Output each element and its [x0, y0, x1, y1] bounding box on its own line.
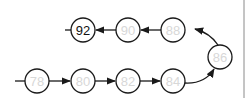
node-84: 84 — [161, 69, 185, 93]
node-label: 84 — [166, 74, 180, 89]
node-label: 88 — [166, 23, 180, 38]
node-86: 86 — [208, 45, 232, 69]
node-80: 80 — [71, 69, 95, 93]
node-88: 88 — [161, 18, 185, 42]
node-92: 92 — [71, 18, 95, 42]
node-label: 90 — [121, 23, 135, 38]
node-label: 82 — [121, 74, 135, 89]
node-label: 80 — [76, 74, 90, 89]
linked-list-diagram: 78 80 82 84 86 88 90 92 — [0, 0, 247, 105]
node-90: 90 — [116, 18, 140, 42]
node-label-highlight: 92 — [76, 23, 90, 38]
node-label: 86 — [213, 50, 227, 65]
edge-84-86 — [185, 69, 214, 83]
node-78: 78 — [25, 69, 49, 93]
node-82: 82 — [116, 69, 140, 93]
node-label: 78 — [30, 74, 44, 89]
edge-86-88 — [195, 29, 218, 45]
